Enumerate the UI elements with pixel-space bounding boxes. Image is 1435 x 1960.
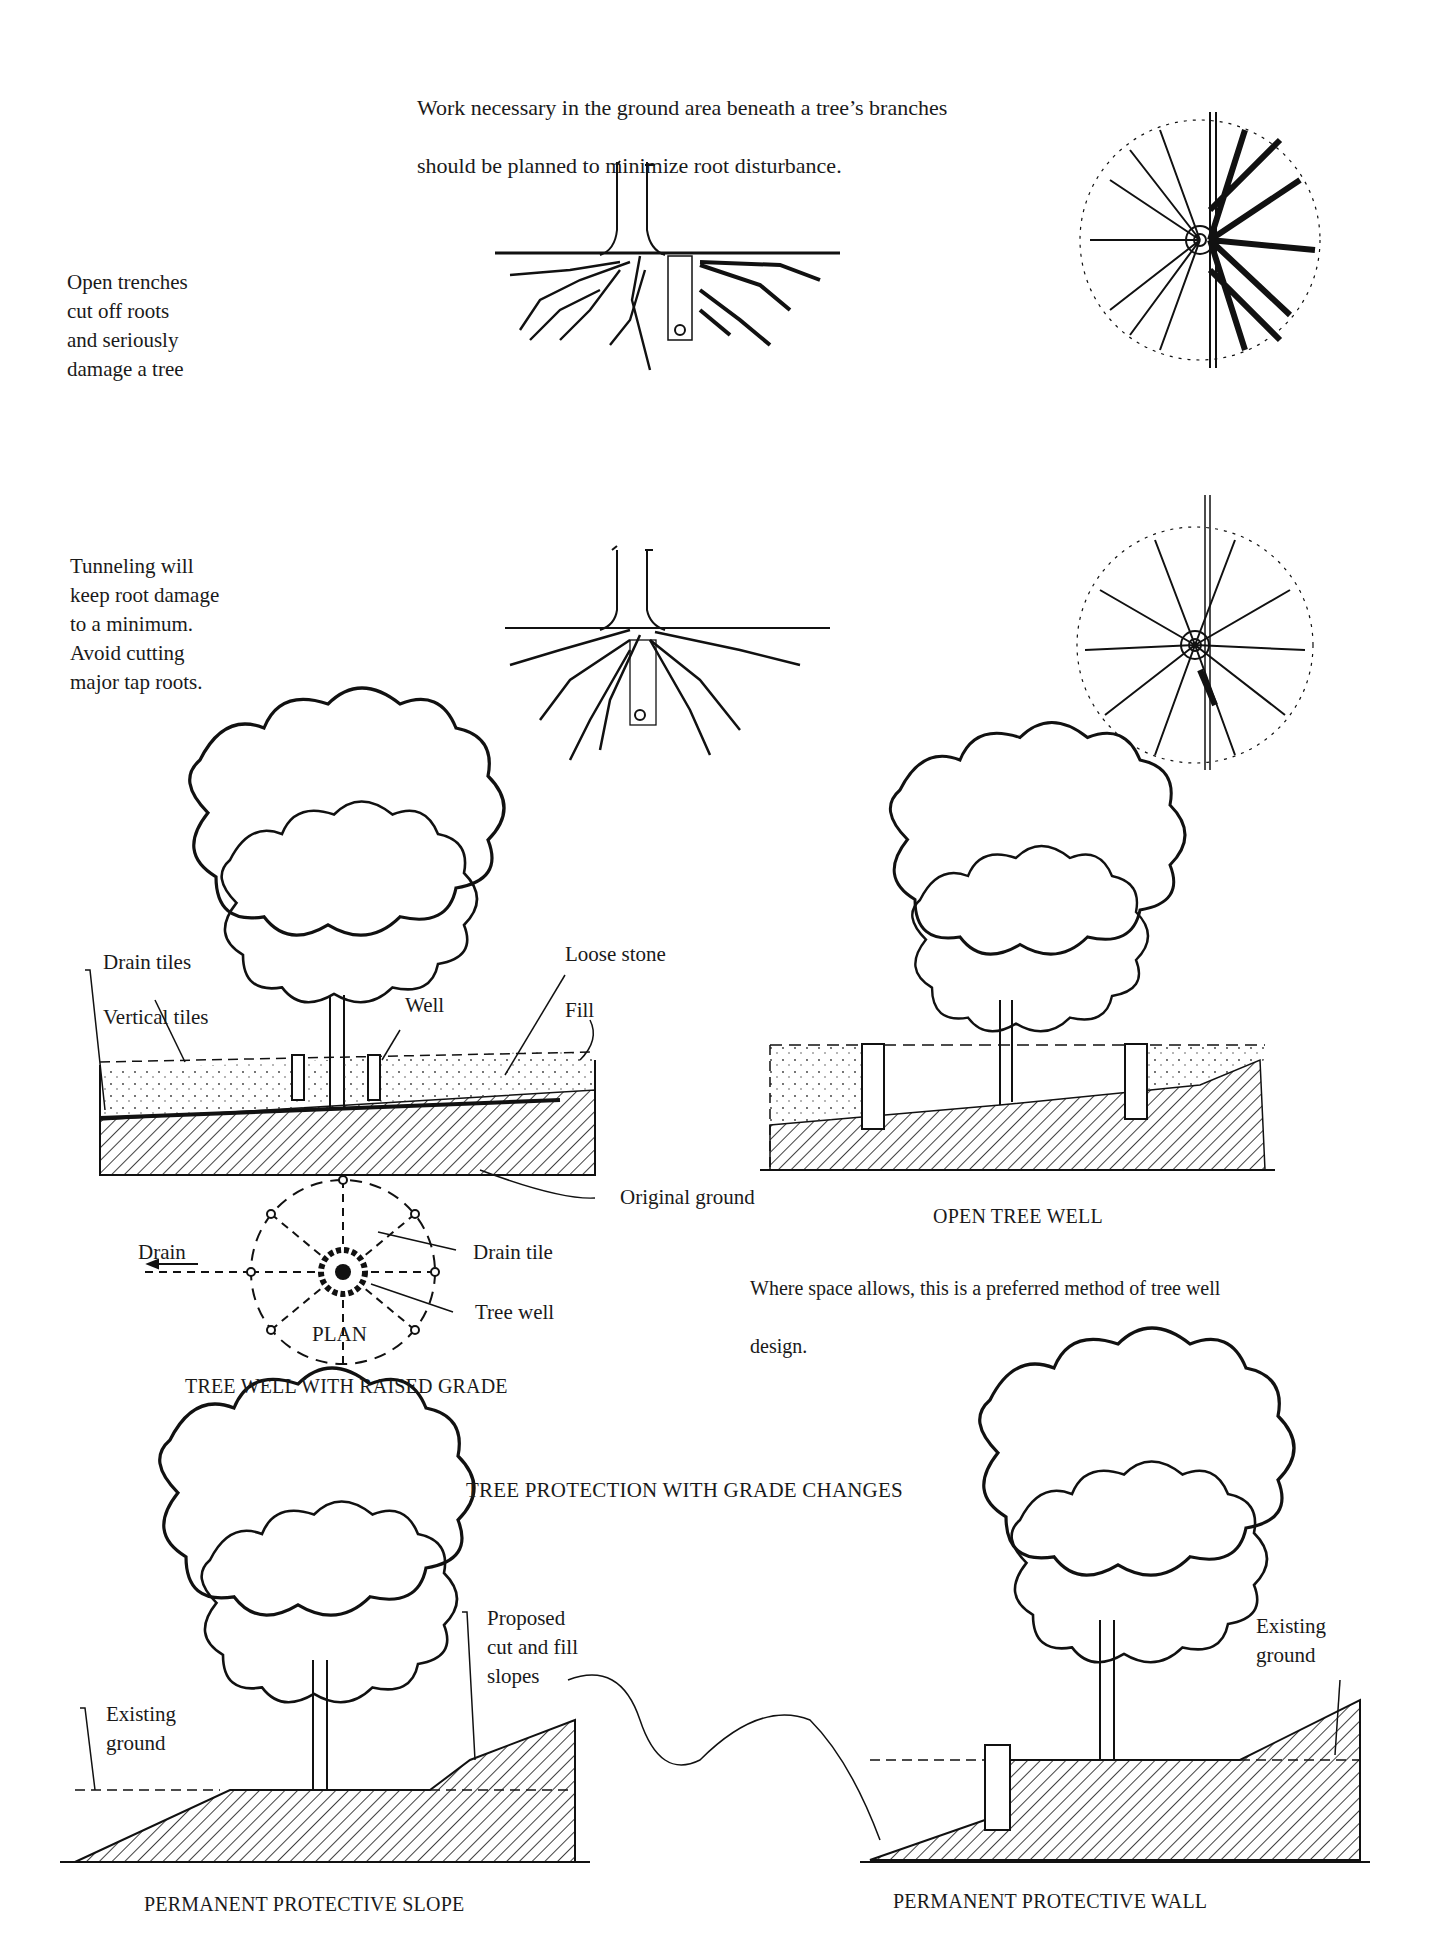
tunnel-root-section [505, 546, 830, 760]
plan-view-tree-trench [1080, 112, 1320, 368]
illustrations [0, 0, 1435, 1960]
label-wall-existing-ground: Existing ground [1256, 1612, 1326, 1670]
section-title: TREE PROTECTION WITH GRADE CHANGES [466, 1478, 903, 1503]
open-well-note-line-2: design. [750, 1332, 1220, 1361]
open-well-note-line-1: Where space allows, this is a preferred … [750, 1274, 1220, 1303]
label-loose-stone: Loose stone [565, 942, 666, 967]
raised-grade-section [85, 688, 595, 1198]
label-drain: Drain [138, 1240, 186, 1265]
label-fill: Fill [565, 998, 594, 1023]
label-original-ground: Original ground [620, 1185, 755, 1210]
label-tree-well: Tree well [475, 1300, 554, 1325]
label-drain-tile: Drain tile [473, 1240, 553, 1265]
label-vertical-tiles: Vertical tiles [103, 1005, 209, 1030]
label-drain-tiles: Drain tiles [103, 950, 191, 975]
label-plan: PLAN [312, 1322, 367, 1347]
tunnel-note: Tunneling will keep root damage to a min… [70, 552, 219, 697]
intro-line-2: should be planned to minimize root distu… [417, 151, 947, 180]
protective-slope-section [60, 1368, 880, 1862]
caption-tree-well-raised-grade: TREE WELL WITH RAISED GRADE [185, 1375, 508, 1398]
open-well-note: Where space allows, this is a preferred … [750, 1245, 1220, 1390]
intro-text: Work necessary in the ground area beneat… [417, 64, 947, 209]
open-tree-well-section [760, 723, 1275, 1171]
intro-line-1: Work necessary in the ground area beneat… [417, 93, 947, 122]
plan-view-tree-tunnel [1077, 495, 1313, 770]
label-slope-existing-ground: Existing ground [106, 1700, 176, 1758]
label-proposed-slopes: Proposed cut and fill slopes [487, 1604, 578, 1691]
caption-protective-slope: PERMANENT PROTECTIVE SLOPE [144, 1893, 464, 1916]
label-well: Well [405, 993, 444, 1018]
tree-well-plan-diagram [143, 1176, 456, 1364]
caption-open-tree-well: OPEN TREE WELL [933, 1205, 1103, 1228]
protective-wall-section [860, 1328, 1370, 1862]
trench-note: Open trenches cut off roots and seriousl… [67, 268, 188, 384]
caption-protective-wall: PERMANENT PROTECTIVE WALL [893, 1890, 1207, 1913]
